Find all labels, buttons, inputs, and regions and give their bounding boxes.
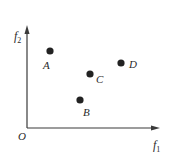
x-axis-label: f1: [153, 138, 160, 152]
origin-label: O: [18, 130, 26, 142]
point-b: [76, 96, 83, 103]
point-d-label: D: [128, 58, 137, 70]
y-axis-label: f2: [14, 29, 21, 45]
point-c-label: C: [96, 73, 104, 85]
point-c: [86, 70, 93, 77]
point-b-label: B: [83, 106, 90, 118]
diagram-canvas: f2 f1 O A B C D: [0, 0, 175, 152]
point-a: [46, 47, 53, 54]
point-a-label: A: [42, 59, 50, 71]
point-d: [117, 59, 124, 66]
x-axis-arrow-icon: [151, 126, 160, 131]
y-axis-arrow-icon: [25, 25, 30, 34]
